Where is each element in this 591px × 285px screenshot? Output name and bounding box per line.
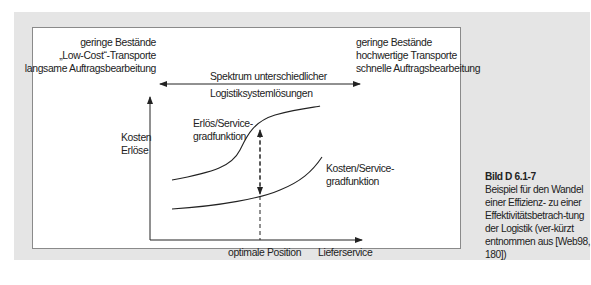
cost-label-2: gradfunktion — [326, 175, 394, 188]
right-line-3: schnelle Auftragsbearbeitung — [356, 62, 480, 75]
caption-text: Beispiel für den Wandel einer Effizienz-… — [485, 184, 590, 260]
x-axis-label: Lieferservice — [318, 246, 372, 259]
cost-curve — [172, 157, 322, 209]
spectrum-label-top: Spektrum unterschiedlicher — [210, 70, 327, 83]
right-block-text: geringe Bestände hochwertige Transporte … — [356, 36, 480, 75]
left-line-2: „Low-Cost“-Transporte — [25, 49, 156, 62]
left-block-text: geringe Bestände „Low-Cost“-Transporte l… — [25, 36, 156, 75]
y-axis-label: Kosten Erlöse — [121, 131, 151, 157]
revenue-label-1: Erlös/Service- — [193, 117, 253, 130]
figure-caption: Bild D 6.1-7 Beispiel für den Wandel ein… — [485, 170, 591, 261]
right-line-1: geringe Bestände — [356, 36, 480, 49]
caption-title: Bild D 6.1-7 — [485, 170, 591, 183]
optimum-label: optimale Position — [228, 246, 301, 259]
spectrum-label-bottom: Logistiksystemlösungen — [210, 87, 313, 100]
right-line-2: hochwertige Transporte — [356, 49, 480, 62]
left-line-1: geringe Bestände — [25, 36, 156, 49]
y-label-2: Erlöse — [121, 144, 151, 157]
left-line-3: langsame Auftragsbearbeitung — [25, 62, 156, 75]
revenue-curve-label: Erlös/Service- gradfunktion — [193, 117, 253, 143]
cost-label-1: Kosten/Service- — [326, 162, 394, 175]
revenue-label-2: gradfunktion — [193, 130, 253, 143]
y-label-1: Kosten — [121, 131, 151, 144]
cost-curve-label: Kosten/Service- gradfunktion — [326, 162, 394, 188]
